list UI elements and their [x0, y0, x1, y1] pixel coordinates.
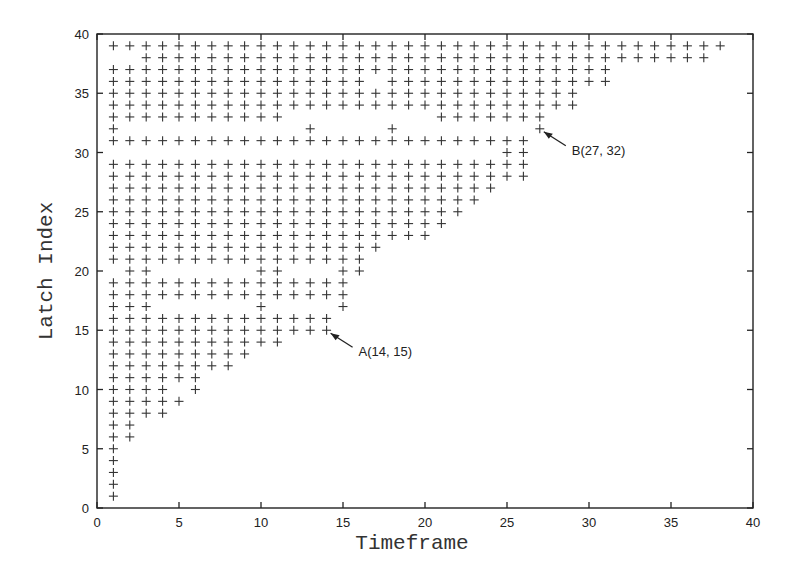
plus-marker	[257, 267, 266, 276]
plus-marker	[355, 267, 364, 276]
plus-marker	[388, 124, 397, 133]
plus-marker	[175, 349, 184, 358]
plus-marker	[437, 184, 446, 193]
plus-marker	[191, 77, 200, 86]
plus-marker	[175, 41, 184, 50]
plus-marker	[109, 231, 118, 240]
plus-marker	[371, 195, 380, 204]
plus-marker	[388, 41, 397, 50]
plus-marker	[207, 349, 216, 358]
plus-marker	[552, 101, 561, 110]
plus-marker	[371, 231, 380, 240]
plus-marker	[355, 172, 364, 181]
plus-marker	[207, 172, 216, 181]
plus-marker	[453, 195, 462, 204]
plus-marker	[486, 41, 495, 50]
plus-marker	[404, 65, 413, 74]
plus-marker	[191, 278, 200, 287]
plus-marker	[257, 219, 266, 228]
plus-marker	[142, 326, 151, 335]
plus-marker	[437, 160, 446, 169]
plus-marker	[486, 172, 495, 181]
plus-marker	[470, 77, 479, 86]
plus-marker	[355, 219, 364, 228]
plus-marker	[453, 65, 462, 74]
plus-marker	[388, 89, 397, 98]
plus-marker	[158, 41, 167, 50]
plus-marker	[519, 136, 528, 145]
plus-marker	[470, 112, 479, 121]
plus-marker	[125, 302, 134, 311]
plus-marker	[125, 385, 134, 394]
plus-marker	[355, 195, 364, 204]
plus-marker	[470, 89, 479, 98]
plus-marker	[125, 184, 134, 193]
plus-marker	[142, 77, 151, 86]
plus-marker	[289, 314, 298, 323]
plus-marker	[109, 278, 118, 287]
plus-marker	[486, 89, 495, 98]
plus-marker	[142, 373, 151, 382]
plus-marker	[388, 136, 397, 145]
annotation-label: A(14, 15)	[359, 344, 412, 359]
plus-marker	[257, 207, 266, 216]
x-tick-label: 20	[418, 515, 432, 530]
plus-marker	[535, 124, 544, 133]
plus-marker	[519, 65, 528, 74]
plus-marker	[601, 77, 610, 86]
y-tick-label: 25	[75, 205, 89, 220]
plus-marker	[322, 290, 331, 299]
plus-marker	[437, 101, 446, 110]
plus-marker	[273, 326, 282, 335]
plus-marker	[158, 231, 167, 240]
plus-marker	[142, 160, 151, 169]
plus-marker	[322, 65, 331, 74]
plus-marker	[289, 278, 298, 287]
plus-marker	[257, 53, 266, 62]
plus-marker	[273, 219, 282, 228]
plus-marker	[634, 53, 643, 62]
plus-marker	[453, 207, 462, 216]
plus-marker	[257, 184, 266, 193]
plus-marker	[453, 89, 462, 98]
plus-marker	[355, 255, 364, 264]
plus-marker	[257, 101, 266, 110]
plus-marker	[273, 89, 282, 98]
plus-marker	[421, 41, 430, 50]
plus-marker	[240, 207, 249, 216]
plus-marker	[257, 326, 266, 335]
plus-marker	[224, 160, 233, 169]
plus-marker	[453, 77, 462, 86]
plus-marker	[191, 53, 200, 62]
plus-marker	[650, 41, 659, 50]
plus-marker	[142, 255, 151, 264]
plus-marker	[109, 219, 118, 228]
plus-marker	[699, 41, 708, 50]
plus-marker	[240, 219, 249, 228]
plus-marker	[289, 101, 298, 110]
plus-marker	[388, 160, 397, 169]
plus-marker	[240, 243, 249, 252]
plus-marker	[125, 409, 134, 418]
plus-marker	[519, 160, 528, 169]
x-tick-label: 15	[336, 515, 350, 530]
plus-marker	[371, 207, 380, 216]
plus-marker	[306, 195, 315, 204]
plus-marker	[306, 219, 315, 228]
plus-marker	[207, 338, 216, 347]
plus-marker	[519, 148, 528, 157]
plus-marker	[142, 338, 151, 347]
plus-marker	[142, 409, 151, 418]
plus-marker	[355, 53, 364, 62]
plus-marker	[322, 184, 331, 193]
plus-marker	[191, 255, 200, 264]
plus-marker	[191, 101, 200, 110]
plus-marker	[355, 184, 364, 193]
y-tick-label: 40	[75, 27, 89, 42]
plus-marker	[535, 101, 544, 110]
plus-marker	[289, 184, 298, 193]
plus-marker	[109, 432, 118, 441]
plus-marker	[470, 41, 479, 50]
plus-marker	[175, 53, 184, 62]
plus-marker	[322, 172, 331, 181]
